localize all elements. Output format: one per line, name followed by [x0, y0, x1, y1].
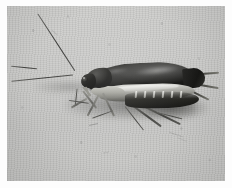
antenna-upper: [37, 13, 75, 71]
antenna-lower-tip: [11, 65, 37, 69]
photograph-image-area: [7, 6, 225, 181]
antenna-lower: [11, 74, 73, 82]
eye-highlight: [83, 77, 85, 79]
middle-leg-tarsus: [92, 110, 113, 119]
photo-frame: adult cockroach in left-facing profile r…: [0, 0, 232, 188]
cockroach: [7, 6, 225, 181]
